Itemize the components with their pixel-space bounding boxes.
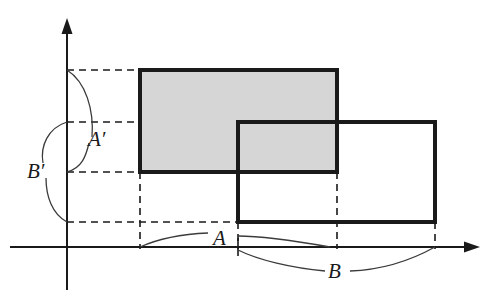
- x-axis-arrow-icon: [464, 242, 480, 253]
- brace-b-right-arc: [350, 247, 435, 271]
- brace-b-label: B: [328, 259, 341, 283]
- brace-b-prime: B′: [27, 122, 67, 222]
- brace-b: B: [238, 247, 435, 283]
- brace-b-prime-upper-arc: [42, 122, 67, 163]
- diagram-svg: A′ B′ A B: [0, 0, 503, 307]
- brace-a-prime-lower-arc: [67, 143, 89, 172]
- brace-b-prime-lower-arc: [46, 178, 67, 222]
- brace-a-label: A: [211, 226, 226, 250]
- brace-b-prime-label: B′: [27, 159, 45, 183]
- y-axis-arrow-icon: [62, 18, 73, 34]
- brace-a-prime: A′: [67, 70, 106, 172]
- brace-a-left-arc: [140, 233, 208, 247]
- figure-canvas: A′ B′ A B: [0, 0, 503, 307]
- brace-a-prime-label: A′: [86, 127, 106, 151]
- brace-b-left-arc: [238, 250, 325, 271]
- brace-a-right-arc: [238, 236, 330, 247]
